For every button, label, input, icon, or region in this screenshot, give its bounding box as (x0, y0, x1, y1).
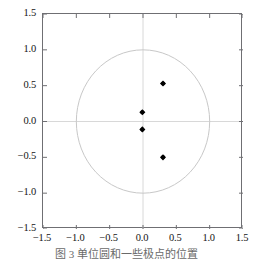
data-point-core (140, 127, 144, 131)
figure-caption: 图 3 单位圆和一些极点的位置 (0, 247, 253, 259)
x-tick-label: −0.5 (91, 233, 127, 244)
x-tick-label: −1.5 (24, 233, 60, 244)
x-tick-label: 0.5 (157, 233, 193, 244)
y-tick-label: 1.5 (2, 8, 36, 19)
y-tick-label: −1.5 (2, 223, 36, 234)
y-tick-label: 0.0 (2, 116, 36, 127)
y-tick-label: 0.5 (2, 80, 36, 91)
data-point-core (161, 155, 165, 159)
scatter-plot-svg (43, 14, 243, 229)
x-tick-label: −1.0 (57, 233, 93, 244)
y-tick-label: −0.5 (2, 151, 36, 162)
y-tick-label: −1.0 (2, 187, 36, 198)
data-point-core (161, 82, 165, 86)
figure-container: 1.51.00.50.0−0.5−1.0−1.5 −1.5−1.0−0.50.0… (0, 0, 253, 259)
x-tick-label: 1.5 (224, 233, 253, 244)
x-tick-label: 0.0 (124, 233, 160, 244)
x-tick-label: 1.0 (191, 233, 227, 244)
zero-reference-lines (43, 14, 243, 229)
data-point-core (140, 110, 144, 114)
y-tick-label: 1.0 (2, 44, 36, 55)
plot-area (42, 13, 242, 228)
